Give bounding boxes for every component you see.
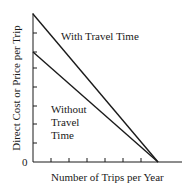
label-with-travel-time: With Travel Time: [61, 30, 139, 42]
x-axis-label: Number of Trips per Year: [51, 171, 164, 183]
chart-plot: [0, 0, 193, 193]
label-without-1: Without: [51, 103, 87, 115]
label-without-2: Travel: [51, 116, 79, 128]
y-axis-label: Direct Cost or Price per Trip: [10, 20, 22, 156]
label-without-3: Time: [51, 129, 74, 141]
y-origin-label: 0: [22, 156, 28, 168]
